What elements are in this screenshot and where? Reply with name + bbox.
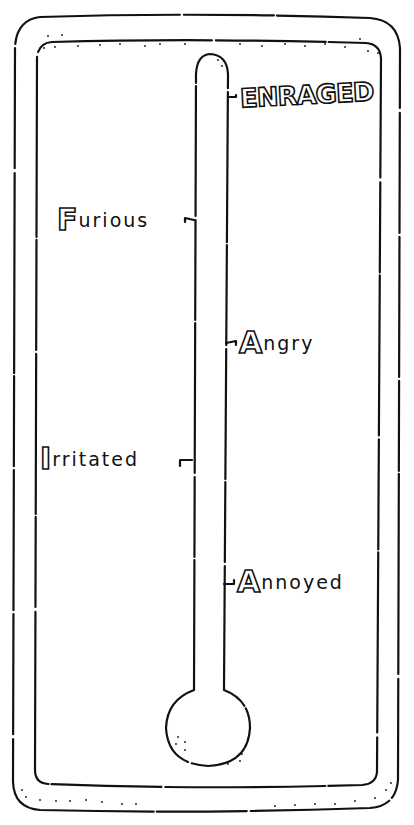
tick-furious — [185, 218, 194, 222]
level-initial-furious: F — [57, 205, 78, 235]
level-rest-irritated: rritated — [52, 448, 139, 470]
stipple-texture — [21, 34, 392, 807]
level-rest-angry: ngry — [263, 332, 314, 354]
level-label-enraged: ENRAGED — [239, 79, 374, 112]
level-rest-annoyed: nnoyed — [261, 571, 344, 593]
thermometer-body — [166, 54, 250, 766]
anger-thermometer-worksheet: ENRAGED Furious Angry Irritated Annoyed — [0, 0, 414, 825]
outer-frame — [13, 15, 400, 812]
inner-frame — [35, 40, 381, 787]
level-label-angry: Angry — [239, 328, 314, 358]
level-initial-angry: A — [239, 328, 262, 358]
level-rest-furious: urious — [79, 209, 150, 231]
thermometer-illustration — [0, 0, 414, 825]
tick-irritated — [180, 460, 192, 466]
level-label-furious: Furious — [57, 205, 149, 235]
tick-enraged — [228, 95, 236, 97]
level-initial-irritated: I — [40, 444, 51, 474]
tick-angry — [226, 341, 236, 345]
level-label-annoyed: Annoyed — [237, 567, 344, 597]
level-label-irritated: Irritated — [40, 444, 139, 474]
level-initial-annoyed: A — [237, 567, 260, 597]
